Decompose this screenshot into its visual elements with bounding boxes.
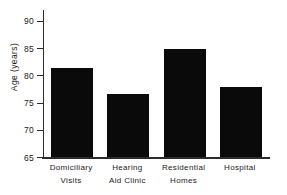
y-tick: 90 bbox=[37, 21, 43, 22]
x-axis-line bbox=[42, 157, 270, 159]
y-tick: 70 bbox=[37, 130, 43, 131]
x-tick-label-line: Homes bbox=[150, 174, 218, 187]
bar bbox=[220, 87, 262, 157]
y-tick-label: 70 bbox=[24, 125, 34, 135]
y-axis-title: Age (years) bbox=[9, 27, 19, 107]
y-tick-label: 85 bbox=[24, 44, 34, 54]
y-tick-label: 65 bbox=[24, 153, 34, 163]
y-tick-label: 75 bbox=[24, 98, 34, 108]
x-tick-label-line: Hospital bbox=[206, 161, 274, 174]
y-tick: 85 bbox=[37, 48, 43, 49]
bar bbox=[164, 49, 206, 157]
bar bbox=[51, 68, 93, 157]
bar bbox=[107, 94, 149, 157]
bar-chart: Age (years) 657075808590 DomiciliaryVisi… bbox=[0, 0, 287, 195]
plot-area: 657075808590 DomiciliaryVisitsHearingAid… bbox=[43, 10, 268, 157]
y-tick: 65 bbox=[37, 157, 43, 158]
y-axis-line bbox=[43, 10, 44, 157]
y-tick: 75 bbox=[37, 103, 43, 104]
y-tick-label: 80 bbox=[24, 71, 34, 81]
y-tick: 80 bbox=[37, 75, 43, 76]
x-tick-label: Hospital bbox=[206, 161, 274, 174]
y-tick-label: 90 bbox=[24, 16, 34, 26]
